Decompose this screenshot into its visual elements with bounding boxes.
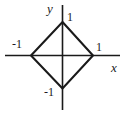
coordinate-plane-graphic [0,0,127,114]
x-axis-label: x [111,61,117,74]
tick-label-x-positive-one: 1 [96,41,102,53]
y-axis-label: y [47,2,53,15]
tick-label-y-negative-one: -1 [44,86,54,98]
tick-label-x-negative-one: -1 [12,38,22,50]
math-figure: y x 1 1 -1 -1 [0,0,127,114]
tick-label-y-positive-one: 1 [67,11,73,23]
